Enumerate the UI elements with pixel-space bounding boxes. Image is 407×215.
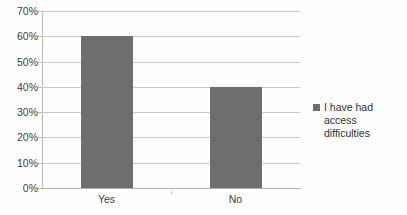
y-tick-mark — [38, 163, 42, 164]
bar[interactable] — [81, 36, 133, 188]
bar-chart: 0%10%20%30%40%50%60%70% YesNo I have had… — [0, 0, 407, 215]
y-tick-label: 60% — [2, 31, 38, 41]
bar-group — [171, 11, 300, 188]
x-tick-label: Yes — [42, 193, 171, 205]
legend-item-label: I have had access difficulties — [324, 101, 405, 140]
y-tick-label: 30% — [2, 107, 38, 117]
y-tick-mark — [38, 188, 42, 189]
x-axis: YesNo — [42, 191, 300, 211]
y-tick-mark — [38, 112, 42, 113]
bar[interactable] — [210, 87, 262, 188]
legend-swatch-icon — [313, 104, 320, 111]
y-tick-mark — [38, 11, 42, 12]
y-axis: 0%10%20%30%40%50%60%70% — [0, 11, 38, 188]
y-tick-mark — [38, 36, 42, 37]
plot-area — [42, 11, 300, 188]
y-tick-label: 10% — [2, 158, 38, 168]
y-tick-label: 40% — [2, 82, 38, 92]
y-tick-label: 50% — [2, 57, 38, 67]
y-tick-mark — [38, 62, 42, 63]
x-tick-label: No — [171, 193, 300, 205]
x-axis-line — [42, 188, 301, 189]
y-tick-label: 0% — [2, 183, 38, 193]
bar-group — [42, 11, 171, 188]
y-tick-mark — [38, 87, 42, 88]
y-tick-label: 70% — [2, 6, 38, 16]
x-tick-mark — [171, 191, 172, 194]
y-tick-mark — [38, 137, 42, 138]
y-tick-label: 20% — [2, 132, 38, 142]
legend: I have had access difficulties — [313, 101, 405, 140]
